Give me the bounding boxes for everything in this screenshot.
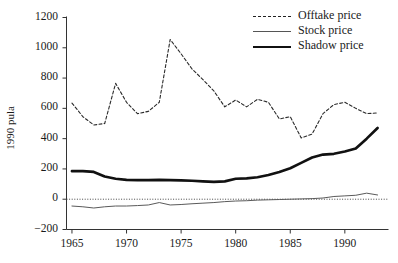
legend-item-stock-price: Stock price [252, 23, 394, 38]
legend-swatch-thick-line-icon [252, 40, 292, 52]
series-line-shadow-price [72, 128, 378, 182]
legend-swatch-dashed-icon [252, 10, 292, 22]
chart-figure: 1990 pula −20002004006008001000120019651… [0, 0, 398, 263]
legend-label-offtake-price: Offtake price [292, 8, 361, 23]
series-line-offtake-price [72, 39, 378, 137]
chart-legend: Offtake price Stock price Shadow price [252, 8, 394, 53]
legend-label-shadow-price: Shadow price [292, 38, 364, 53]
legend-swatch-thin-line-icon [252, 25, 292, 37]
legend-item-shadow-price: Shadow price [252, 38, 394, 53]
legend-label-stock-price: Stock price [292, 23, 352, 38]
series-line-stock-price [72, 193, 378, 208]
legend-item-offtake-price: Offtake price [252, 8, 394, 23]
data-series [72, 39, 378, 208]
